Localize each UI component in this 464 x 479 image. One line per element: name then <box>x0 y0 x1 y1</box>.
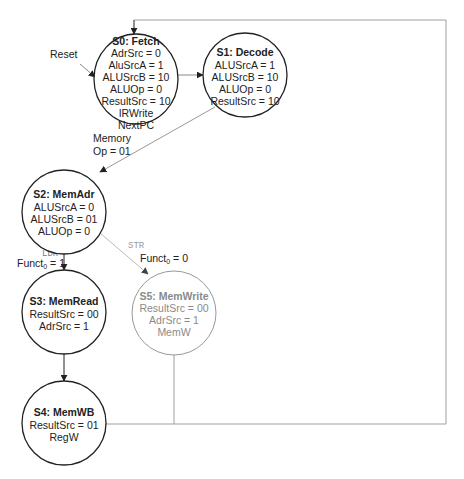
svg-text:MemW: MemW <box>157 326 190 338</box>
memory-label: Memory <box>93 132 132 144</box>
str-condition: Funct0 = 0 <box>140 252 188 265</box>
svg-text:ALUSrcB = 10: ALUSrcB = 10 <box>103 71 170 83</box>
svg-text:RegW: RegW <box>49 431 78 443</box>
state-s0-fetch: S0: Fetch AdrSrc = 0 AluSrcA = 1 ALUSrcB… <box>94 34 178 131</box>
svg-text:ALUSrcA = 0: ALUSrcA = 0 <box>34 201 95 213</box>
svg-text:AdrSrc = 0: AdrSrc = 0 <box>111 47 161 59</box>
svg-text:S4: MemWB: S4: MemWB <box>34 406 95 418</box>
str-tag: STR <box>128 241 145 251</box>
svg-text:IRWrite: IRWrite <box>119 107 154 119</box>
state-s4-memwb: S4: MemWB ResultSrc = 01 RegW <box>22 381 106 465</box>
svg-text:ALUOp = 0: ALUOp = 0 <box>110 83 162 95</box>
state-s3-memread: S3: MemRead ResultSrc = 00 AdrSrc = 1 <box>22 270 106 354</box>
svg-text:S2: MemAdr: S2: MemAdr <box>33 188 94 200</box>
svg-text:ResultSrc = 01: ResultSrc = 01 <box>29 419 98 431</box>
svg-text:ResultSrc = 00: ResultSrc = 00 <box>29 308 98 320</box>
svg-text:S0: Fetch: S0: Fetch <box>112 35 159 47</box>
state-s2-memadr: S2: MemAdr ALUSrcA = 0 ALUSrcB = 01 ALUO… <box>22 170 106 254</box>
reset-edge: Reset <box>50 48 95 77</box>
svg-text:ResultSrc = 00: ResultSrc = 00 <box>139 302 208 314</box>
svg-text:ALUSrcA = 1: ALUSrcA = 1 <box>215 59 276 71</box>
svg-text:ALUOp = 0: ALUOp = 0 <box>38 225 90 237</box>
state-s5-memwrite: S5: MemWrite ResultSrc = 00 AdrSrc = 1 M… <box>132 271 216 355</box>
reset-label: Reset <box>50 48 78 60</box>
svg-text:ALUSrcB = 10: ALUSrcB = 10 <box>212 71 279 83</box>
svg-text:ALUSrcB = 01: ALUSrcB = 01 <box>31 213 98 225</box>
ldr-condition: Funct0 = 1 <box>17 257 65 270</box>
svg-text:S1: Decode: S1: Decode <box>216 46 273 58</box>
svg-text:S3: MemRead: S3: MemRead <box>30 295 99 307</box>
op-label: Op = 01 <box>93 145 131 157</box>
svg-text:NextPC: NextPC <box>118 119 155 131</box>
fsm-diagram: Reset Memory Op = 01 LDR Funct0 = 1 STR … <box>0 0 464 479</box>
state-s1-decode: S1: Decode ALUSrcA = 1 ALUSrcB = 10 ALUO… <box>203 33 287 117</box>
svg-text:AdrSrc = 1: AdrSrc = 1 <box>149 314 199 326</box>
svg-text:ResultSrc = 10: ResultSrc = 10 <box>210 95 279 107</box>
svg-text:ALUOp = 0: ALUOp = 0 <box>219 83 271 95</box>
svg-text:ResultSrc = 10: ResultSrc = 10 <box>101 95 170 107</box>
svg-text:AdrSrc = 1: AdrSrc = 1 <box>39 320 89 332</box>
svg-text:S5: MemWrite: S5: MemWrite <box>139 290 208 302</box>
s2-to-s5-edge: STR Funct0 = 0 <box>100 233 188 274</box>
svg-text:AluSrcA = 1: AluSrcA = 1 <box>108 59 163 71</box>
